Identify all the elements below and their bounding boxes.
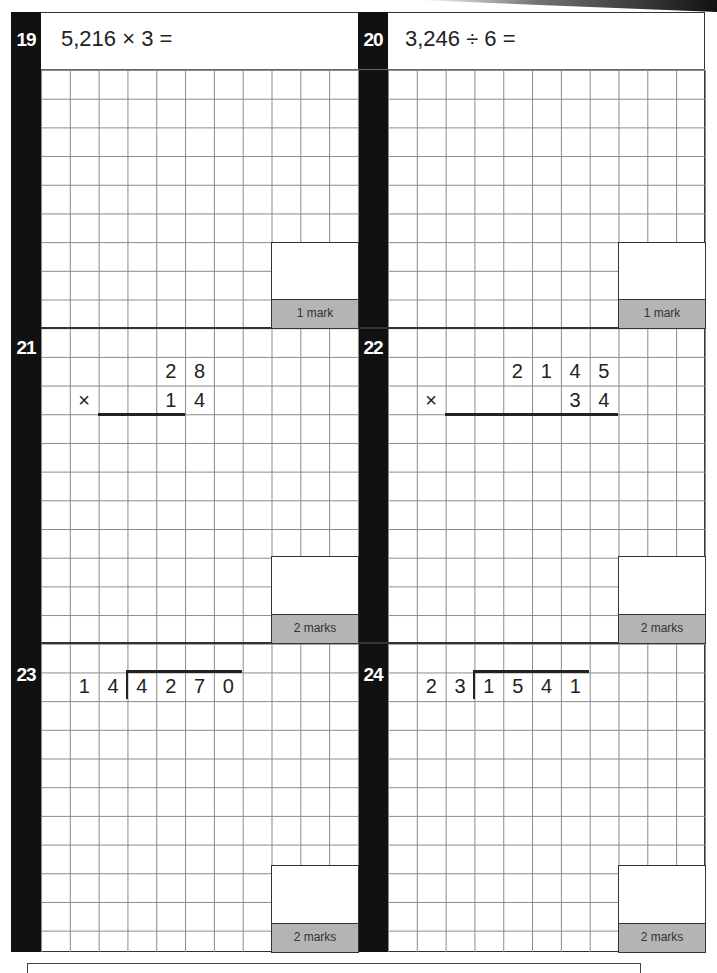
page-edge-shadow (417, 0, 717, 12)
working-grid-left[interactable] (41, 70, 359, 952)
q23-divisor-digit-0: 1 (70, 672, 99, 700)
q24-divisor-digit-0: 2 (417, 672, 446, 700)
marks-label-24: 2 marks (618, 923, 706, 953)
answer-box-22[interactable] (618, 556, 706, 616)
answer-box-24[interactable] (618, 865, 706, 925)
question-number-20: 20 (358, 29, 388, 51)
question-number-24: 24 (358, 664, 388, 686)
answer-box-19[interactable] (271, 242, 359, 301)
question-number-19: 19 (11, 29, 41, 51)
marks-label-21: 2 marks (271, 614, 359, 644)
working-grid-right[interactable] (388, 70, 706, 952)
q22-top-digit-2: 4 (561, 357, 590, 385)
next-section-box (27, 963, 641, 973)
q23-dividend-digit-3: 0 (214, 672, 243, 700)
q23-division-bracket (126, 670, 129, 699)
q24-division-bracket (473, 670, 476, 699)
question-bar-right (358, 12, 388, 952)
q22-bottom-digit-0: 3 (561, 386, 590, 414)
answer-box-20[interactable] (618, 242, 706, 301)
marks-label-20: 1 mark (618, 299, 706, 329)
question-number-22: 22 (358, 337, 388, 359)
q23-dividend-digit-2: 7 (185, 672, 214, 700)
q24-dividend-digit-3: 1 (561, 672, 590, 700)
q21-bottom-digit-0: 1 (156, 386, 185, 414)
q23-divisor-digit-1: 4 (99, 672, 128, 700)
section-divider-2 (41, 642, 705, 644)
q23-dividend-digit-1: 2 (156, 672, 185, 700)
q22-top-digit-1: 1 (532, 357, 561, 385)
section-divider-1 (41, 327, 705, 329)
q24-divisor-digit-1: 3 (446, 672, 475, 700)
q23-dividend-digit-0: 4 (128, 672, 157, 700)
question-bar-left (11, 12, 41, 952)
marks-label-19: 1 mark (271, 299, 359, 329)
q22-top-digit-0: 2 (503, 357, 532, 385)
q22-operator: × (417, 386, 446, 414)
q23-division-bar (126, 670, 242, 673)
q22-top-digit-3: 5 (590, 357, 619, 385)
q24-dividend-digit-0: 1 (475, 672, 504, 700)
q21-underline (98, 413, 185, 416)
question-19-prompt: 5,216 × 3 = (61, 26, 172, 52)
q22-bottom-digit-1: 4 (590, 386, 619, 414)
q21-top-digit-0: 2 (156, 357, 185, 385)
question-number-21: 21 (11, 337, 41, 359)
question-number-23: 23 (11, 664, 41, 686)
q24-division-bar (473, 670, 589, 673)
q22-underline (445, 413, 618, 416)
q21-operator: × (70, 386, 99, 414)
marks-label-23: 2 marks (271, 923, 359, 953)
answer-box-23[interactable] (271, 865, 359, 925)
q24-dividend-digit-2: 4 (532, 672, 561, 700)
answer-box-21[interactable] (271, 556, 359, 616)
q21-bottom-digit-1: 4 (185, 386, 214, 414)
q21-top-digit-1: 8 (185, 357, 214, 385)
marks-label-22: 2 marks (618, 614, 706, 644)
q24-dividend-digit-1: 5 (503, 672, 532, 700)
question-20-prompt: 3,246 ÷ 6 = (405, 26, 516, 52)
